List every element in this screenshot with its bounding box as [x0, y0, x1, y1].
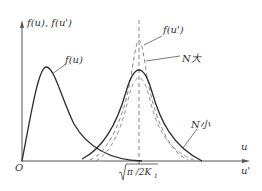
x-tick-label-body: π /2K [126, 167, 153, 177]
y-axis-arrow-icon [20, 20, 24, 28]
x-axis-label-u-prime: u' [241, 165, 250, 176]
axes [20, 20, 250, 163]
y-axis-label: f(u), f(u') [26, 17, 72, 28]
x-axis-arrow-icon [242, 159, 250, 163]
diagram-canvas: f(u), f(u') f(u) f(u') N大 N小 u u' O π /2… [0, 0, 262, 191]
label-f-u-prime: f(u') [162, 24, 184, 35]
label-n-small: N小 [190, 119, 211, 130]
leader-n-large [146, 56, 180, 61]
curve-n-small [96, 78, 196, 161]
label-n-large: N大 [181, 53, 202, 64]
leader-f-u-prime [144, 36, 162, 45]
leader-f-u [52, 64, 66, 74]
label-f-u: f(u) [64, 54, 83, 65]
x-tick-label-subscript: 1 [154, 172, 158, 179]
x-tick-label: π /2K 1 [119, 164, 158, 180]
curve-n-large [82, 70, 202, 161]
origin-label: O [15, 162, 23, 173]
x-axis-label-u: u [241, 141, 247, 152]
leader-n-small [183, 129, 197, 148]
